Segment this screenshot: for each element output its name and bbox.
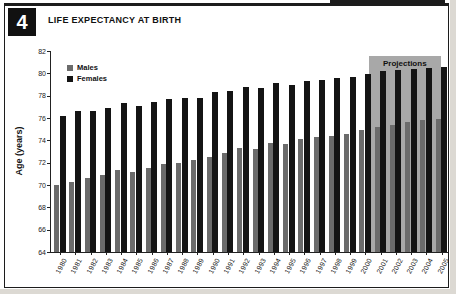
y-tick-mark-66 bbox=[47, 230, 51, 231]
bar-females-1983 bbox=[105, 108, 111, 252]
bar-females-1999 bbox=[350, 77, 356, 252]
bar-males-1991 bbox=[222, 153, 227, 252]
x-tick-mark-1987 bbox=[167, 252, 168, 255]
x-tick-mark-2003 bbox=[411, 252, 412, 255]
x-tick-mark-2002 bbox=[396, 252, 397, 255]
bar-females-1992 bbox=[243, 87, 249, 252]
bar-males-1981 bbox=[69, 182, 74, 252]
x-tick-mark-1984 bbox=[121, 252, 122, 255]
bar-females-1993 bbox=[258, 88, 264, 252]
y-tick-label-72: 72 bbox=[25, 158, 46, 167]
x-tick-mark-1996 bbox=[304, 252, 305, 255]
bar-females-1985 bbox=[136, 106, 142, 252]
y-tick-mark-74 bbox=[47, 140, 51, 141]
x-tick-mark-2005 bbox=[442, 252, 443, 255]
x-tick-mark-1998 bbox=[335, 252, 336, 255]
bar-males-1980 bbox=[54, 185, 59, 252]
y-tick-mark-78 bbox=[47, 96, 51, 97]
page-edge-right bbox=[450, 0, 456, 294]
x-tick-mark-1982 bbox=[91, 252, 92, 255]
x-label-2005: 2005 bbox=[432, 257, 450, 283]
x-tick-mark-1994 bbox=[274, 252, 275, 255]
legend-item-females: Females bbox=[67, 75, 107, 83]
bar-males-1983 bbox=[100, 175, 105, 252]
figure-number-badge: 4 bbox=[8, 8, 36, 36]
bar-females-1987 bbox=[166, 99, 172, 252]
bar-females-1984 bbox=[121, 103, 127, 252]
bar-females-1994 bbox=[273, 83, 279, 252]
y-tick-label-82: 82 bbox=[25, 47, 46, 56]
bar-males-1985 bbox=[130, 172, 135, 252]
bar-males-1982 bbox=[85, 178, 90, 252]
bar-females-1986 bbox=[151, 102, 157, 252]
bar-males-1992 bbox=[237, 148, 242, 252]
y-tick-label-68: 68 bbox=[25, 203, 46, 212]
bar-males-1988 bbox=[176, 163, 181, 252]
x-tick-mark-1985 bbox=[136, 252, 137, 255]
scan-artifact-strip bbox=[330, 0, 445, 3]
x-tick-mark-1990 bbox=[213, 252, 214, 255]
bar-males-1986 bbox=[146, 168, 151, 252]
bar-males-1995 bbox=[283, 144, 288, 252]
x-tick-mark-1993 bbox=[259, 252, 260, 255]
y-tick-label-80: 80 bbox=[25, 69, 46, 78]
y-tick-mark-72 bbox=[47, 163, 51, 164]
bar-males-2000 bbox=[359, 130, 364, 252]
bar-females-1981 bbox=[75, 111, 81, 252]
y-tick-mark-76 bbox=[47, 118, 51, 119]
legend: Males Females bbox=[67, 64, 107, 86]
page-edge-bottom bbox=[0, 289, 456, 294]
figure-title: LIFE EXPECTANCY AT BIRTH bbox=[48, 15, 181, 25]
bar-females-1990 bbox=[212, 92, 218, 252]
y-tick-mark-80 bbox=[47, 73, 51, 74]
bar-females-1991 bbox=[227, 91, 233, 252]
x-tick-mark-1995 bbox=[289, 252, 290, 255]
bar-females-1996 bbox=[304, 81, 310, 252]
legend-label-males: Males bbox=[77, 64, 98, 72]
y-tick-label-70: 70 bbox=[25, 181, 46, 190]
y-tick-label-64: 64 bbox=[25, 248, 46, 257]
bar-males-2003 bbox=[405, 122, 410, 252]
x-tick-mark-1986 bbox=[152, 252, 153, 255]
x-tick-mark-1989 bbox=[197, 252, 198, 255]
bar-males-1999 bbox=[344, 134, 349, 252]
bar-females-1989 bbox=[197, 98, 203, 252]
bar-females-1995 bbox=[289, 85, 295, 253]
projections-label: Projections bbox=[369, 56, 441, 68]
bar-males-1989 bbox=[191, 160, 196, 252]
x-tick-mark-1992 bbox=[243, 252, 244, 255]
bar-males-1993 bbox=[253, 149, 258, 252]
bar-males-1987 bbox=[161, 164, 166, 252]
bar-females-2000 bbox=[365, 74, 371, 252]
y-tick-label-74: 74 bbox=[25, 136, 46, 145]
y-tick-label-76: 76 bbox=[25, 114, 46, 123]
y-axis-title: Age (years) bbox=[14, 126, 24, 175]
x-tick-mark-2000 bbox=[365, 252, 366, 255]
x-tick-mark-1980 bbox=[60, 252, 61, 255]
y-tick-label-66: 66 bbox=[25, 225, 46, 234]
y-tick-mark-68 bbox=[47, 207, 51, 208]
bar-males-2002 bbox=[390, 125, 395, 252]
bar-females-1988 bbox=[182, 98, 188, 252]
bar-females-2001 bbox=[380, 71, 386, 252]
legend-label-females: Females bbox=[77, 75, 107, 83]
x-tick-mark-1997 bbox=[320, 252, 321, 255]
bar-males-1996 bbox=[298, 139, 303, 252]
bar-males-2005 bbox=[436, 119, 441, 252]
y-tick-mark-64 bbox=[47, 252, 51, 253]
x-tick-mark-1999 bbox=[350, 252, 351, 255]
plot-area: Projections 64666870727476788082 1980198… bbox=[50, 51, 448, 253]
bar-males-1994 bbox=[268, 143, 273, 252]
y-tick-label-78: 78 bbox=[25, 91, 46, 100]
bar-males-1990 bbox=[207, 157, 212, 252]
females-swatch-icon bbox=[67, 76, 73, 82]
y-tick-mark-70 bbox=[47, 185, 51, 186]
figure-number: 4 bbox=[16, 11, 27, 34]
x-tick-mark-1991 bbox=[228, 252, 229, 255]
bar-males-1998 bbox=[329, 136, 334, 252]
bar-females-2002 bbox=[395, 70, 401, 252]
y-tick-mark-82 bbox=[47, 51, 51, 52]
bar-females-2004 bbox=[426, 68, 432, 252]
bar-females-2005 bbox=[441, 67, 447, 252]
bar-males-1984 bbox=[115, 170, 120, 252]
